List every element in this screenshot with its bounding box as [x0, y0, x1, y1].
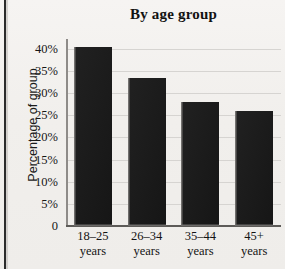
bar-slot: [174, 40, 228, 226]
bar-slot: [66, 40, 120, 226]
y-axis-tick-label: 35%: [18, 64, 58, 79]
y-axis-tick-label: 20%: [18, 130, 58, 145]
y-axis-tick-label: 10%: [18, 174, 58, 189]
y-axis-tick-labels: 05%10%15%20%25%30%35%40%: [18, 40, 62, 226]
x-axis-tick-label: 26–34years: [118, 229, 176, 260]
x-axis-tick-label: 18–25years: [64, 229, 122, 260]
bar-series: [66, 40, 281, 226]
chart-title: By age group: [66, 6, 281, 23]
y-axis-tick-label: 5%: [18, 196, 58, 211]
y-axis-tick-label: 0: [18, 219, 58, 234]
bar: [74, 47, 112, 226]
page-left-rule-shadow: [6, 0, 8, 269]
x-axis-tick-label: 35–44years: [171, 229, 229, 260]
x-axis-tick-label: 45+years: [225, 229, 283, 260]
chart-figure: By age group Percentage of group 05%10%1…: [0, 0, 285, 269]
x-axis-tick-labels: 18–25years26–34years35–44years45+years: [66, 229, 281, 269]
bar: [128, 78, 166, 226]
y-axis-tick-label: 15%: [18, 152, 58, 167]
bar-slot: [120, 40, 174, 226]
bar: [235, 111, 273, 226]
bar: [181, 102, 219, 226]
y-axis-tick-label: 30%: [18, 86, 58, 101]
y-axis-tick-label: 40%: [18, 41, 58, 56]
y-axis-tick-label: 25%: [18, 108, 58, 123]
bar-slot: [227, 40, 281, 226]
